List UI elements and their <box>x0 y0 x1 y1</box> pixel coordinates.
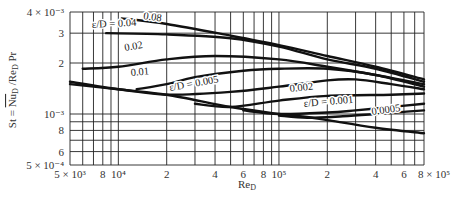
curve--d-0.005 <box>70 79 424 95</box>
y-tick-label: 6 <box>59 146 65 158</box>
x-tick-label: 5 × 10³ <box>54 168 86 180</box>
y-tick-label: 2 <box>59 57 65 69</box>
curve-label: 0.002 <box>289 81 314 94</box>
x-tick-label: 4 <box>373 168 379 180</box>
curve-label: ε/D = 0.04 <box>92 17 138 30</box>
y-tick-label: 10⁻³ <box>44 108 65 120</box>
y-tick-label: 8 <box>59 124 65 136</box>
stanton-number-chart: 0.08ε/D = 0.040.020.01ε/D = 0.0050.002ε/… <box>0 0 451 198</box>
x-tick-label: 10⁵ <box>272 168 287 180</box>
x-tick-label: 6 <box>401 168 407 180</box>
y-axis-title: St = NuD /ReD Pr <box>6 51 20 128</box>
x-tick-label: 10⁴ <box>111 168 126 180</box>
x-tick-label: 8 <box>100 168 106 180</box>
x-tick-label: 8 × 10⁵ <box>418 168 450 180</box>
axis-ticks: 4 × 10⁻³3210⁻³865 × 10⁻⁴5 × 10³810⁴24681… <box>26 6 450 180</box>
x-tick-label: 2 <box>325 168 331 180</box>
x-tick-label: 2 <box>164 168 170 180</box>
curve-label: 0.01 <box>130 65 149 78</box>
y-tick-label: 3 <box>59 27 65 39</box>
x-tick-label: 4 <box>212 168 218 180</box>
grid <box>70 12 424 165</box>
curves <box>70 18 424 133</box>
curve-label: 0.02 <box>123 39 143 53</box>
x-tick-label: 8 <box>261 168 267 180</box>
y-tick-label: 4 × 10⁻³ <box>27 6 65 18</box>
x-axis-title: ReD <box>238 178 256 192</box>
